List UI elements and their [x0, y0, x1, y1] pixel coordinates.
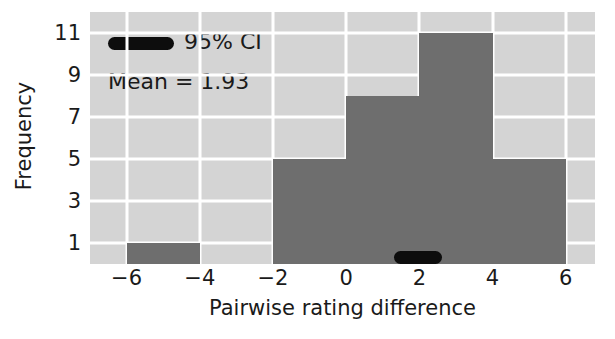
legend-ci-marker-icon — [108, 37, 174, 50]
y-gridline — [90, 116, 595, 119]
y-tick-label: 11 — [54, 21, 81, 45]
y-tick-label: 9 — [68, 63, 81, 87]
histogram-figure: Frequency 1357911 95% CI Mean = 1.93 −6−… — [0, 0, 615, 339]
y-tick-label: 5 — [68, 147, 81, 171]
plot-area: 95% CI Mean = 1.93 — [90, 12, 595, 264]
x-tick-label: 0 — [339, 266, 352, 290]
y-tick-label: 1 — [68, 231, 81, 255]
y-axis-title: Frequency — [6, 0, 42, 272]
y-gridline — [90, 32, 595, 35]
x-tick-label: 2 — [413, 266, 426, 290]
x-tick-label: −2 — [257, 266, 288, 290]
y-axis-tick-labels: 1357911 — [40, 0, 88, 272]
y-tick-label: 7 — [68, 105, 81, 129]
histogram-bar — [346, 96, 419, 264]
x-tick-label: −4 — [184, 266, 215, 290]
x-tick-label: 6 — [559, 266, 572, 290]
y-axis-title-text: Frequency — [12, 82, 36, 191]
y-tick-label: 3 — [68, 189, 81, 213]
histogram-bar — [127, 243, 200, 264]
x-axis-title: Pairwise rating difference — [90, 296, 595, 320]
x-gridline — [198, 12, 201, 264]
x-axis-tick-labels: −6−4−20246 — [90, 264, 595, 294]
y-gridline — [90, 74, 595, 77]
confidence-interval-bar — [394, 251, 442, 264]
histogram-bar — [493, 159, 566, 264]
histogram-bar — [273, 159, 346, 264]
x-tick-label: 4 — [486, 266, 499, 290]
histogram-bar — [419, 33, 492, 264]
x-gridline — [125, 12, 128, 264]
x-tick-label: −6 — [111, 266, 142, 290]
